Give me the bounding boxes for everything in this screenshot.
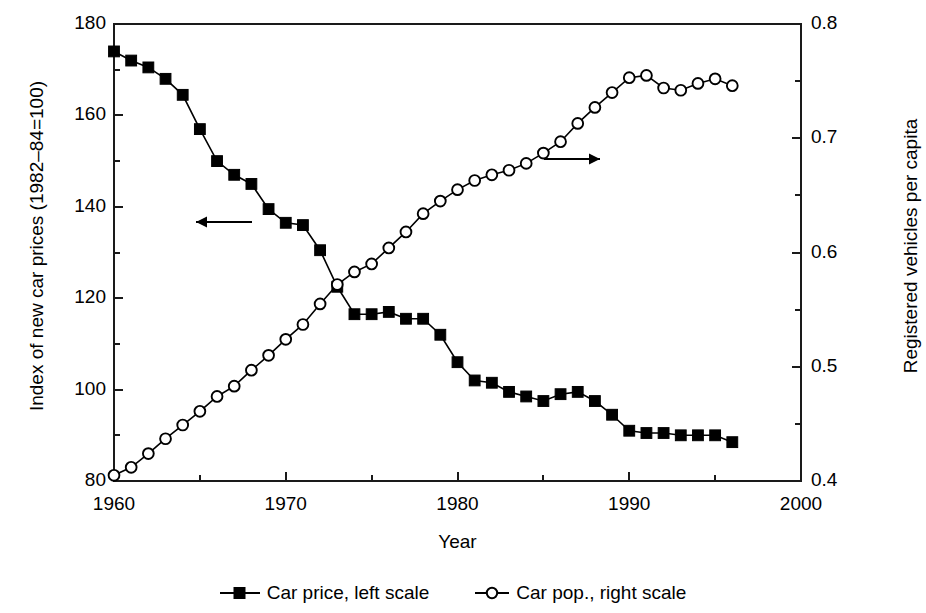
chart-legend: Car price, left scale Car pop., right sc… (0, 578, 906, 608)
legend-item-car-price: Car price, left scale (220, 582, 430, 604)
y-left-tick-label: 180 (42, 12, 106, 34)
y-right-tick-label: 0.6 (811, 241, 875, 263)
y-left-tick-label: 80 (42, 469, 106, 491)
x-tick-label: 1960 (74, 493, 154, 515)
y-right-tick-label: 0.8 (811, 12, 875, 34)
y-right-tick-label: 0.7 (811, 126, 875, 148)
legend-item-car-pop: Car pop., right scale (475, 582, 686, 604)
left-scale-arrow (196, 217, 252, 228)
x-tick-label: 1980 (418, 493, 498, 515)
filled-square-marker-icon (220, 585, 260, 601)
x-axis-ticks (114, 472, 801, 481)
legend-label: Car pop., right scale (516, 582, 686, 604)
y-left-tick-label: 100 (42, 378, 106, 400)
x-tick-label: 1970 (246, 493, 326, 515)
data-series-layer (109, 46, 738, 481)
y-left-tick-label: 160 (42, 103, 106, 125)
y-axis-right-ticks (792, 24, 801, 481)
open-circle-marker-icon (475, 585, 509, 601)
y-axis-left-ticks (114, 24, 123, 481)
axis-frame (114, 24, 801, 481)
y-right-tick-label: 0.5 (811, 355, 875, 377)
x-tick-label: 1990 (589, 493, 669, 515)
x-tick-label: 2000 (761, 493, 841, 515)
y-left-tick-label: 120 (42, 286, 106, 308)
y-left-tick-label: 140 (42, 195, 106, 217)
right-scale-arrow (544, 154, 600, 165)
y-right-tick-label: 0.4 (811, 469, 875, 491)
legend-label: Car price, left scale (267, 582, 430, 604)
series-car-price (109, 46, 738, 448)
